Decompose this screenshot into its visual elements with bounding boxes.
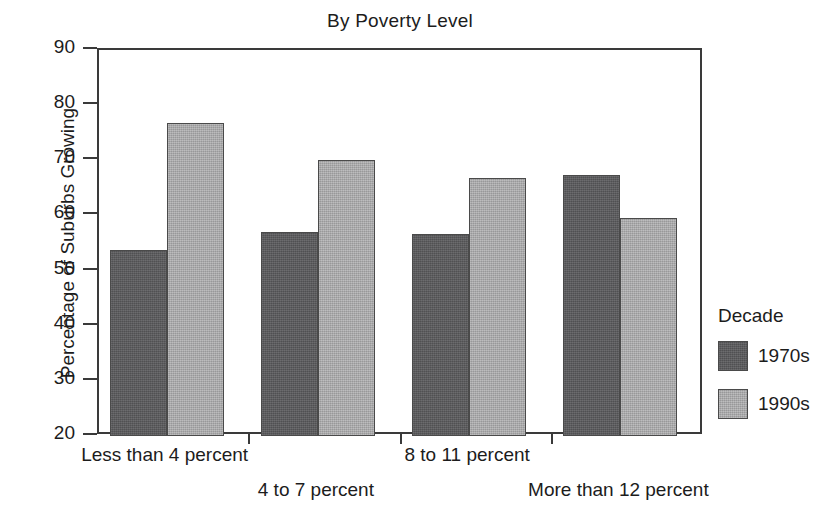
y-tick: 80 [83,102,97,104]
y-tick-label: 50 [54,257,83,279]
legend-swatch-1990s [718,389,748,419]
x-tick [248,434,250,444]
legend-entry: 1970s [718,341,820,371]
y-tick: 40 [83,323,97,325]
y-tick: 50 [83,268,97,270]
chart-figure: By Poverty Level Percentage of Suburbs G… [0,0,820,524]
legend: Decade 1970s1990s [718,305,820,437]
bar [412,234,469,436]
y-tick-label: 80 [54,91,83,113]
y-tick-label: 20 [54,422,83,444]
legend-label: 1970s [758,345,810,367]
y-tick: 70 [83,157,97,159]
legend-swatch-1970s [718,341,748,371]
x-category-label: More than 12 percent [528,479,709,501]
bar [110,250,167,436]
legend-entry: 1990s [718,389,820,419]
bar [167,123,224,436]
y-tick: 60 [83,212,97,214]
y-tick-label: 60 [54,201,83,223]
bars-container [99,50,700,432]
x-category-label: 4 to 7 percent [258,479,374,501]
legend-title: Decade [718,305,820,327]
legend-entries: 1970s1990s [718,341,820,419]
bar [261,232,318,436]
x-tick [400,434,402,444]
y-tick: 90 [83,47,97,49]
x-category-label: 8 to 11 percent [404,444,529,466]
y-tick-label: 70 [54,146,83,168]
y-tick: 30 [83,378,97,380]
y-tick-label: 30 [54,367,83,389]
bar [318,160,375,436]
bar [563,175,620,436]
y-tick: 20 [83,433,97,435]
legend-label: 1990s [758,393,810,415]
plot-area [97,48,702,434]
chart-title: By Poverty Level [0,10,800,32]
y-tick-label: 40 [54,312,83,334]
bar [469,178,526,436]
bar [620,218,677,436]
x-category-label: Less than 4 percent [81,444,248,466]
x-tick [551,434,553,444]
y-tick-label: 90 [54,36,83,58]
